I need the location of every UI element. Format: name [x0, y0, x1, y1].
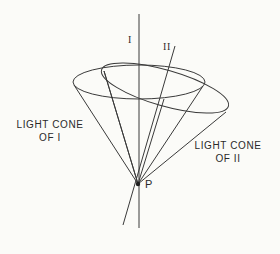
cone-1-edge-right	[138, 86, 203, 184]
cone-2-label-line1: LIGHT CONE	[192, 139, 264, 152]
cone-2-rim	[97, 53, 234, 124]
worldline-2-label: II	[163, 40, 171, 53]
worldline-2	[123, 46, 175, 225]
cone-2-label: LIGHT CONE OF II	[192, 139, 264, 165]
cone-1-label-line2: OF I	[14, 131, 86, 144]
point-p-label: P	[145, 178, 153, 191]
event-point-p	[136, 182, 140, 186]
cone-1-label: LIGHT CONE OF I	[14, 118, 86, 144]
worldline-1-label: I	[128, 33, 132, 46]
cone-1-edge-front	[138, 99, 164, 184]
cone-2-label-line2: OF II	[192, 152, 264, 165]
cone-2-edge-left	[104, 71, 138, 184]
cone-1-label-line1: LIGHT CONE	[14, 118, 86, 131]
